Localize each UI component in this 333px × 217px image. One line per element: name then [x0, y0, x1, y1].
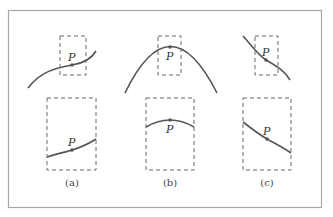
point-label-a: P	[67, 51, 76, 64]
caption-c: (c)	[260, 177, 274, 188]
zoomed-point-label-c: P	[262, 125, 271, 138]
point-label-b: P	[165, 50, 174, 63]
panel-b: P P (b)	[125, 36, 217, 188]
zoomed-point-p-b	[168, 118, 172, 122]
diagram: P P (a) P P (b) P P (c)	[0, 0, 333, 217]
zoomed-point-label-a: P	[67, 136, 76, 149]
zoomed-point-label-b: P	[165, 123, 174, 136]
panel-c: P P (c)	[243, 36, 291, 188]
caption-b: (b)	[163, 177, 177, 188]
large-zoom-box-a	[47, 98, 96, 170]
point-p-b	[168, 45, 172, 49]
point-label-c: P	[261, 46, 270, 59]
panel-a: P P (a)	[28, 36, 96, 188]
caption-a: (a)	[65, 177, 79, 188]
